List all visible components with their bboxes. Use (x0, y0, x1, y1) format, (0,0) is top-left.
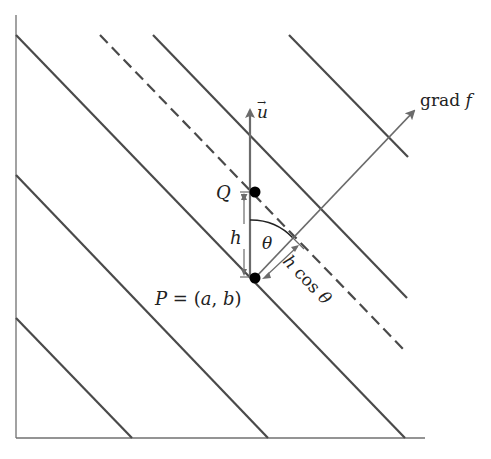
point-Q (250, 187, 261, 198)
h-label: h (230, 227, 242, 248)
u-arrow-accent: → (257, 96, 266, 109)
Q-label: Q (216, 182, 231, 203)
h-cos-theta-label: h cos θ (279, 251, 335, 308)
axes (16, 15, 425, 438)
grad-f-vector (255, 111, 414, 278)
gradient-diagram: u → grad f Q h θ P = (a, b) h cos θ (0, 0, 491, 459)
P-label: P = (a, b) (154, 288, 241, 309)
contour-line-5 (289, 35, 408, 157)
grad-f-label: grad f (420, 90, 474, 110)
point-P (250, 273, 261, 284)
theta-label: θ (262, 233, 272, 253)
contour-line-4 (153, 35, 407, 298)
contour-lines (16, 35, 408, 438)
contour-line-3 (16, 318, 132, 438)
